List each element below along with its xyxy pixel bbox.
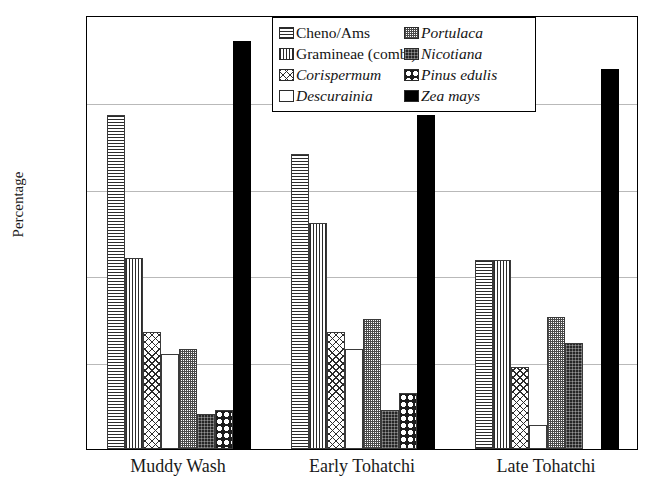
bar-corispermum [327,332,345,449]
legend-item-zea-mays: Zea mays [404,88,529,104]
bar-descurainia [529,425,547,449]
legend-item-descurainia: Descurainia [279,88,404,104]
bar-pinus-edulis [399,393,417,449]
legend-swatch-icon [279,48,294,60]
bar-descurainia [161,354,179,449]
bar-descurainia [345,349,363,449]
legend-label: Portulaca [421,25,483,41]
bar-zea-mays [601,69,619,449]
legend-swatch-icon [404,48,419,60]
legend-row: CorispermumPinus edulis [279,64,529,85]
bar-gramineae-comb [125,258,143,449]
bar-cheno-ams [475,260,493,449]
bar-gramineae-comb [493,260,511,449]
bar-zea-mays [233,41,251,449]
bar-cheno-ams [107,115,125,449]
legend-item-nicotiana: Nicotiana [404,46,529,62]
bar-nicotiana [381,410,399,449]
legend-row: Gramineae (comb.)Nicotiana [279,43,529,64]
legend-swatch-icon [279,90,294,102]
bar-portulaca [363,319,381,449]
legend-label: Zea mays [421,88,480,104]
bar-nicotiana [197,414,215,449]
bar-corispermum [511,367,529,449]
legend-label: Cheno/Ams [296,25,370,41]
bar-group-muddy-wash [87,17,271,449]
legend-swatch-icon [404,90,419,102]
x-axis-tick-late-tohatchi: Late Tohatchi [446,456,646,477]
legend-rows: Cheno/AmsPortulacaGramineae (comb.)Nicot… [279,22,529,106]
legend-label: Corispermum [296,67,381,83]
legend-row: Cheno/AmsPortulaca [279,22,529,43]
legend-swatch-icon [404,69,419,81]
legend-label: Pinus edulis [421,67,497,83]
legend-label: Gramineae (comb.) [296,46,417,62]
legend-item-pinus-edulis: Pinus edulis [404,67,529,83]
legend-swatch-icon [404,27,419,39]
chart-page: Percentage 020406080100 Muddy WashEarly … [0,0,657,492]
legend-label: Nicotiana [421,46,482,62]
legend-swatch-icon [279,27,294,39]
bar-zea-mays [417,115,435,449]
legend-swatch-icon [279,69,294,81]
x-axis-tick-early-tohatchi: Early Tohatchi [262,456,462,477]
legend-item-cheno-ams: Cheno/Ams [279,25,404,41]
y-axis-label: Percentage [10,135,27,275]
legend-label: Descurainia [296,88,373,104]
bar-portulaca [179,349,197,449]
bar-portulaca [547,317,565,449]
legend-item-gramineae-comb: Gramineae (comb.) [279,46,404,62]
bar-nicotiana [565,343,583,449]
bar-cheno-ams [291,154,309,449]
bar-corispermum [143,332,161,449]
bar-pinus-edulis [215,410,233,449]
x-axis-tick-muddy-wash: Muddy Wash [78,456,278,477]
bar-gramineae-comb [309,223,327,449]
legend-row: DescurainiaZea mays [279,85,529,106]
chart-legend: Cheno/AmsPortulacaGramineae (comb.)Nicot… [272,17,536,112]
legend-item-portulaca: Portulaca [404,25,529,41]
legend-item-corispermum: Corispermum [279,67,404,83]
